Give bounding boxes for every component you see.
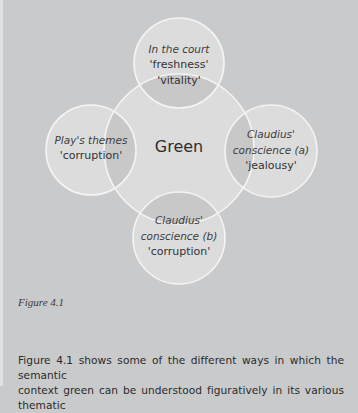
node-right-text: Claudius' conscience (a) 'jealousy' (221, 126, 321, 174)
node-right-category-line-1: Claudius' (221, 126, 321, 142)
semantic-diagram: Green In the court 'freshness' 'vitality… (0, 0, 358, 300)
body-line-1: Figure 4.1 shows some of the different w… (18, 353, 344, 383)
node-top-text: In the court 'freshness' 'vitality' (129, 41, 229, 89)
center-label: Green (129, 137, 229, 156)
node-right-category-line-2: conscience (a) (221, 142, 321, 158)
figure-caption: Figure 4.1 (18, 296, 64, 308)
node-bottom-sense-1: 'corruption' (129, 244, 229, 260)
node-left-sense-1: 'corruption' (41, 148, 141, 164)
node-left-category: Play's themes (41, 132, 141, 148)
node-bottom-category-line-2: conscience (b) (129, 228, 229, 244)
node-bottom-text: Claudius' conscience (b) 'corruption' (129, 212, 229, 260)
node-top-sense-1: 'freshness' (129, 57, 229, 73)
node-top-category: In the court (129, 41, 229, 57)
node-bottom-category-line-1: Claudius' (129, 212, 229, 228)
body-paragraph: Figure 4.1 shows some of the different w… (18, 353, 344, 413)
body-line-2: context green can be understood figurati… (18, 383, 344, 413)
node-left-text: Play's themes 'corruption' (41, 132, 141, 164)
node-right-sense-1: 'jealousy' (221, 158, 321, 174)
node-top-sense-2: 'vitality' (129, 73, 229, 89)
